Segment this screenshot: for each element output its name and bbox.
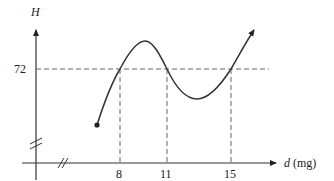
y-axis — [30, 30, 42, 180]
y-axis-label: H — [30, 5, 41, 19]
curve-start-dot — [94, 122, 99, 127]
x-axis-unit: (mg) — [293, 156, 316, 170]
x-axis — [22, 158, 276, 168]
x-axis-variable: d — [284, 156, 291, 170]
data-curve — [97, 30, 254, 125]
chart: H 72 8 11 15 d(mg) — [0, 0, 334, 181]
x-tick-11: 11 — [160, 167, 172, 181]
x-tick-8: 8 — [116, 167, 122, 181]
x-tick-15: 15 — [224, 167, 236, 181]
y-tick-72: 72 — [14, 62, 26, 76]
x-axis-label: d(mg) — [284, 156, 316, 170]
